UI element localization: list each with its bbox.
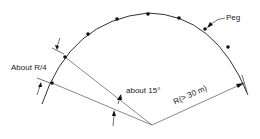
pegs (50, 12, 230, 85)
angle-label: about 15° (126, 86, 160, 95)
arrowhead-icon (236, 83, 244, 88)
spacing-label: About R/4 (11, 63, 47, 72)
peg-label: Peg (226, 13, 240, 22)
